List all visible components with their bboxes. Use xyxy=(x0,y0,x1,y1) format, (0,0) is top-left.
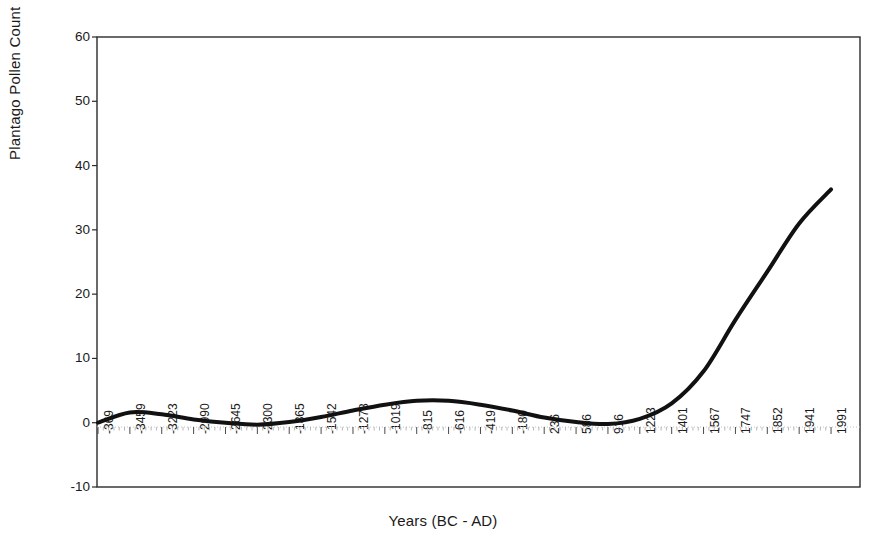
x-minor-tick-marks xyxy=(103,427,825,431)
data-series-line xyxy=(98,189,831,424)
y-tick-marks xyxy=(92,37,97,487)
chart-canvas xyxy=(0,0,886,559)
chart-container: Plantago Pollen Count Years (BC - AD) 60… xyxy=(0,0,886,559)
